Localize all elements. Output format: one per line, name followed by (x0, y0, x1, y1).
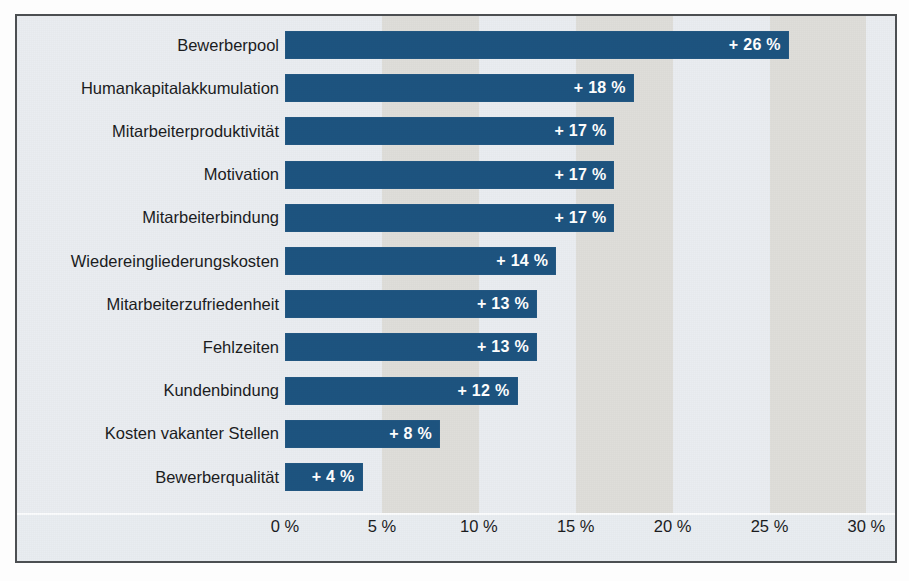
bar-row: Kosten vakanter Stellen+ 8 % (17, 420, 895, 448)
bar: + 17 % (285, 204, 614, 232)
bar: + 17 % (285, 117, 614, 145)
category-label-cell: Motivation (17, 161, 285, 189)
bar-row: Humankapitalakkumulation+ 18 % (17, 74, 895, 102)
category-label: Motivation (204, 165, 279, 184)
bar-value-label: + 12 % (457, 382, 509, 400)
category-label: Kundenbindung (163, 381, 279, 400)
x-tick-label: 5 % (368, 517, 396, 536)
category-label: Fehlzeiten (203, 338, 279, 357)
bar: + 8 % (285, 420, 440, 448)
bar-row: Bewerberqualität+ 4 % (17, 463, 895, 491)
bar-value-label: + 4 % (312, 468, 355, 486)
bar-value-label: + 17 % (554, 209, 606, 227)
bar: + 4 % (285, 463, 363, 491)
x-tick-label: 20 % (654, 517, 692, 536)
bar-row: Fehlzeiten+ 13 % (17, 333, 895, 361)
bar-row: Bewerberpool+ 26 % (17, 31, 895, 59)
x-tick-label: 10 % (460, 517, 498, 536)
scanned-page: Bewerberpool+ 26 %Humankapitalakkumulati… (0, 0, 909, 581)
category-label-cell: Kosten vakanter Stellen (17, 420, 285, 448)
bar: + 18 % (285, 74, 634, 102)
category-label-cell: Humankapitalakkumulation (17, 74, 285, 102)
bar-value-label: + 8 % (389, 425, 432, 443)
bar-value-label: + 17 % (554, 166, 606, 184)
chart-frame: Bewerberpool+ 26 %Humankapitalakkumulati… (15, 14, 897, 563)
bar-value-label: + 14 % (496, 252, 548, 270)
bar-value-label: + 13 % (477, 338, 529, 356)
category-label-cell: Mitarbeiterzufriedenheit (17, 290, 285, 318)
category-label: Mitarbeiterzufriedenheit (107, 295, 279, 314)
category-label-cell: Wiedereingliederungskosten (17, 247, 285, 275)
bar-value-label: + 18 % (574, 79, 626, 97)
x-tick-label: 15 % (557, 517, 595, 536)
bar: + 26 % (285, 31, 789, 59)
bar: + 12 % (285, 377, 518, 405)
bar-row: Wiedereingliederungskosten+ 14 % (17, 247, 895, 275)
x-tick-label: 30 % (848, 517, 886, 536)
category-label-cell: Bewerberqualität (17, 463, 285, 491)
category-label-cell: Mitarbeiterbindung (17, 204, 285, 232)
category-label-cell: Mitarbeiterproduktivität (17, 117, 285, 145)
bar-value-label: + 26 % (729, 36, 781, 54)
x-tick-label: 25 % (751, 517, 789, 536)
bar: + 13 % (285, 290, 537, 318)
category-label: Kosten vakanter Stellen (105, 424, 279, 443)
bar: + 14 % (285, 247, 556, 275)
bar-value-label: + 17 % (554, 122, 606, 140)
category-label: Mitarbeiterbindung (142, 208, 279, 227)
x-tick-label: 0 % (271, 517, 299, 536)
bar-row: Mitarbeiterproduktivität+ 17 % (17, 117, 895, 145)
category-label: Wiedereingliederungskosten (71, 252, 279, 271)
bar-row: Mitarbeiterbindung+ 17 % (17, 204, 895, 232)
bar-value-label: + 13 % (477, 295, 529, 313)
category-label: Mitarbeiterproduktivität (112, 122, 279, 141)
category-label: Bewerberqualität (155, 468, 279, 487)
axis-baseline (17, 513, 895, 515)
category-label-cell: Fehlzeiten (17, 333, 285, 361)
bar-row: Motivation+ 17 % (17, 161, 895, 189)
x-axis-ticks: 0 %5 %10 %15 %20 %25 %30 % (17, 517, 895, 549)
bar-row: Mitarbeiterzufriedenheit+ 13 % (17, 290, 895, 318)
category-label: Bewerberpool (177, 36, 279, 55)
category-label-cell: Bewerberpool (17, 31, 285, 59)
bar: + 17 % (285, 161, 614, 189)
bar: + 13 % (285, 333, 537, 361)
bar-rows: Bewerberpool+ 26 %Humankapitalakkumulati… (17, 16, 895, 513)
bar-row: Kundenbindung+ 12 % (17, 377, 895, 405)
category-label: Humankapitalakkumulation (81, 79, 279, 98)
category-label-cell: Kundenbindung (17, 377, 285, 405)
